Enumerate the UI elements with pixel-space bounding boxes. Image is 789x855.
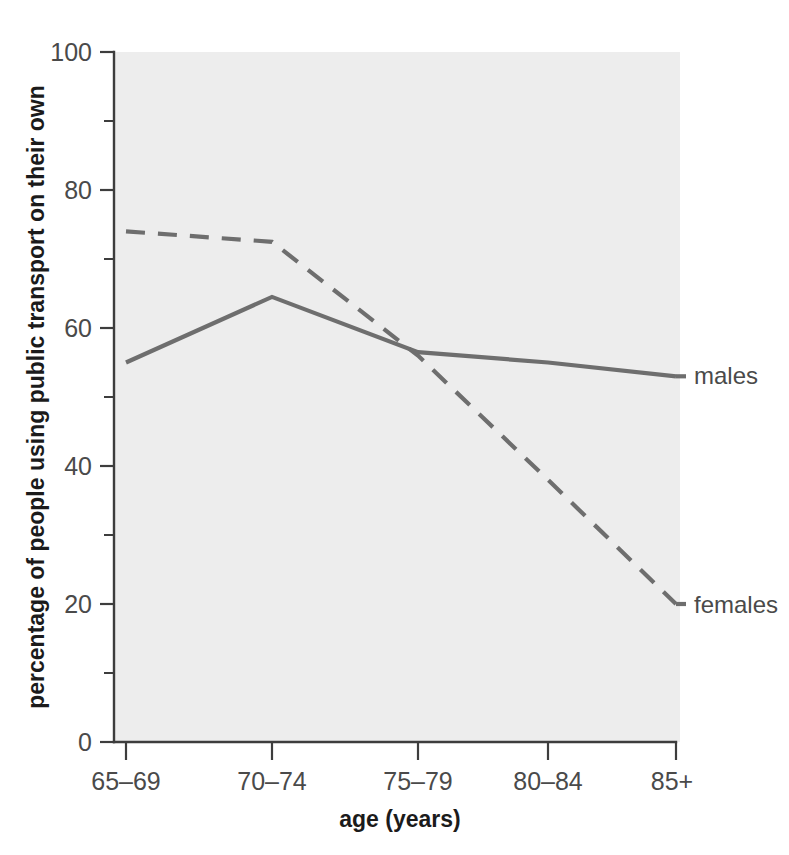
- y-tick-label-0: 0: [78, 728, 92, 756]
- y-tick-label-40: 40: [64, 452, 92, 480]
- x-axis-title: age (years): [339, 806, 460, 832]
- line-chart: 100 80 60 40 20 0 65–69 70–74 75–79 80–8…: [0, 0, 789, 855]
- y-tick-label-60: 60: [64, 314, 92, 342]
- plot-area-background: [114, 52, 680, 742]
- y-axis-title: percentage of people using public transp…: [23, 85, 49, 709]
- y-tick-label-80: 80: [64, 176, 92, 204]
- x-tick-label-75-79: 75–79: [383, 767, 453, 795]
- x-tick-label-80-84: 80–84: [513, 767, 583, 795]
- series-label-females: females: [694, 591, 778, 618]
- y-tick-label-20: 20: [64, 590, 92, 618]
- x-tick-label-85-plus: 85+: [651, 767, 693, 795]
- x-tick-label-65-69: 65–69: [91, 767, 161, 795]
- x-tick-label-70-74: 70–74: [237, 767, 307, 795]
- chart-figure: 100 80 60 40 20 0 65–69 70–74 75–79 80–8…: [0, 0, 789, 855]
- y-tick-label-100: 100: [50, 38, 92, 66]
- series-label-males: males: [694, 362, 758, 389]
